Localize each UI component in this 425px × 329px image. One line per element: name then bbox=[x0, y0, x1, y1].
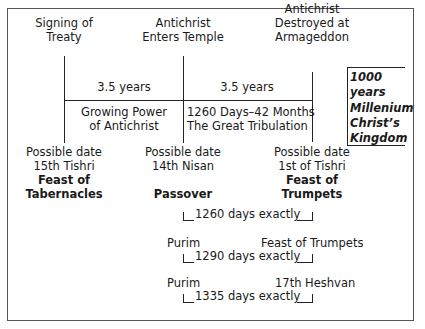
date-treaty-line2: 15th Tishri bbox=[25, 159, 102, 173]
millennium-line5: Kingdom bbox=[350, 131, 413, 146]
event-temple: Antichrist Enters Temple bbox=[142, 16, 223, 44]
span-1290-from: Purim bbox=[167, 236, 200, 250]
period-2-duration: 3.5 years bbox=[220, 80, 274, 94]
span-1335-bracket-left bbox=[183, 294, 194, 303]
period-2-desc-line1: 1260 Days–42 Months bbox=[187, 105, 315, 119]
millennium-line1: 1000 bbox=[350, 70, 413, 85]
span-1290-bracket-right bbox=[297, 254, 313, 263]
event-treaty: Signing of Treaty bbox=[35, 16, 93, 44]
span-1260-label: 1260 days exactly bbox=[195, 207, 300, 221]
event-temple-line1: Antichrist bbox=[142, 16, 223, 30]
period-2-desc-line2: The Great Tribulation bbox=[187, 119, 315, 133]
period-1-description: Growing Power of Antichrist bbox=[81, 105, 167, 133]
event-armageddon-line1: Antichrist bbox=[275, 2, 349, 16]
event-armageddon: Antichrist Destroyed at Armageddon bbox=[275, 2, 349, 44]
event-temple-line2: Enters Temple bbox=[142, 30, 223, 44]
span-1335-from: Purim bbox=[167, 276, 200, 290]
period-1-duration: 3.5 years bbox=[97, 80, 151, 94]
event-armageddon-line2: Destroyed at bbox=[275, 16, 349, 30]
millennium-line4: Christ’s bbox=[350, 116, 413, 131]
date-armageddon: Possible date 1st of Tishri Feast of Tru… bbox=[274, 145, 350, 201]
feast-tabernacles-line1: Feast of bbox=[25, 173, 102, 187]
period-1-desc-line2: of Antichrist bbox=[81, 119, 167, 133]
period-2-description: 1260 Days–42 Months The Great Tribulatio… bbox=[187, 105, 315, 133]
millennium-line2: years bbox=[350, 85, 413, 100]
date-temple-line2: 14th Nisan bbox=[145, 159, 221, 173]
date-armageddon-line1: Possible date bbox=[274, 145, 350, 159]
period-1-desc-line1: Growing Power bbox=[81, 105, 167, 119]
span-1260-bracket-right bbox=[297, 212, 313, 221]
feast-passover-line2: Passover bbox=[145, 187, 221, 201]
millennium-label: 1000 years Millenium Christ’s Kingdom bbox=[350, 70, 413, 146]
span-1335-bracket-right bbox=[297, 294, 313, 303]
date-armageddon-line2: 1st of Tishri bbox=[274, 159, 350, 173]
feast-tabernacles-line2: Tabernacles bbox=[25, 187, 102, 201]
timeline-axis bbox=[64, 100, 313, 101]
span-1290-bracket-left bbox=[183, 254, 194, 263]
event-treaty-line2: Treaty bbox=[35, 30, 93, 44]
event-armageddon-line3: Armageddon bbox=[275, 30, 349, 44]
date-treaty-line1: Possible date bbox=[25, 145, 102, 159]
span-1260-bracket-left bbox=[183, 212, 194, 221]
date-treaty: Possible date 15th Tishri Feast of Taber… bbox=[25, 145, 102, 201]
span-1335-label: 1335 days exactly bbox=[195, 289, 300, 303]
event-treaty-line1: Signing of bbox=[35, 16, 93, 30]
feast-trumpets-line2: Trumpets bbox=[274, 187, 350, 201]
span-1290-label: 1290 days exactly bbox=[195, 249, 300, 263]
feast-passover-line1 bbox=[145, 173, 221, 187]
feast-trumpets-line1: Feast of bbox=[274, 173, 350, 187]
span-1335-to: 17th Heshvan bbox=[275, 276, 355, 290]
date-temple-line1: Possible date bbox=[145, 145, 221, 159]
span-1290-to: Feast of Trumpets bbox=[261, 236, 363, 250]
date-temple: Possible date 14th Nisan Passover bbox=[145, 145, 221, 201]
millennium-line3: Millenium bbox=[350, 101, 413, 116]
